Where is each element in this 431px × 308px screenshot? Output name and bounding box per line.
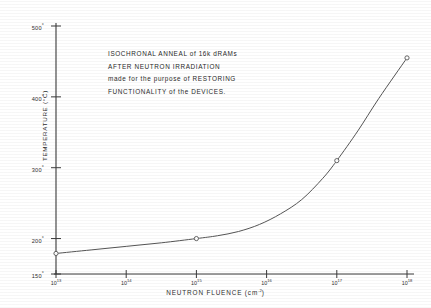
data-point-3 — [335, 159, 339, 163]
data-point-4 — [405, 56, 409, 60]
annotation-text-block: ISOCHRONAL ANNEAL of 16k dRAMs AFTER NEU… — [108, 48, 338, 98]
x-tick-label-10e14: 1014 — [113, 278, 139, 286]
x-tick-label-10e16: 1016 — [254, 278, 280, 286]
y-tick-label-300: 300° — [18, 164, 44, 173]
annotation-line-2: AFTER NEUTRON IRRADIATION — [108, 61, 338, 74]
x-axis-title-tail: ) — [262, 289, 265, 296]
y-tick-label-400: 400° — [18, 93, 44, 102]
x-tick-label-10e15: 1015 — [183, 278, 209, 286]
x-tick-label-10e17: 1017 — [324, 278, 350, 286]
x-tick-label-10e18: 1018 — [394, 278, 420, 286]
x-axis-title-main: NEUTRON FLUENCE (cm — [166, 289, 258, 296]
data-point-2 — [194, 236, 198, 240]
chart-canvas — [0, 0, 431, 308]
x-axis-title: NEUTRON FLUENCE (cm-2) — [0, 288, 431, 296]
x-tick-label-10e13: 1013 — [43, 278, 69, 286]
data-point-1 — [54, 251, 58, 255]
annotation-line-1: ISOCHRONAL ANNEAL of 16k dRAMs — [108, 48, 338, 61]
annotation-line-4: FUNCTIONALITY of the DEVICES. — [108, 86, 338, 99]
y-tick-label-200: 200° — [18, 235, 44, 244]
annotation-line-3: made for the purpose of RESTORING — [108, 73, 338, 86]
y-tick-label-150: 150° — [18, 270, 44, 279]
y-tick-label-500: 500° — [18, 22, 44, 31]
